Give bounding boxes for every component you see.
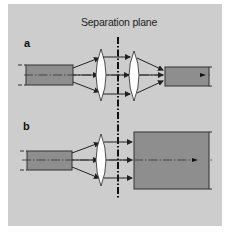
diagram-b [20,132,213,189]
receiver-area-b [134,132,209,189]
input-fiber-b [27,151,72,170]
diagram-a [18,49,213,101]
optics-diagram [0,0,230,233]
output-fiber-a [165,67,209,86]
